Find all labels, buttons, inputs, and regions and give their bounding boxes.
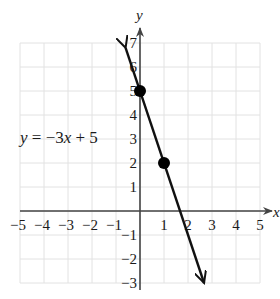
equation-label: y = −3x + 5 <box>18 128 98 147</box>
x-tick-label: −4 <box>34 217 50 233</box>
y-tick-label: −3 <box>121 275 137 291</box>
y-tick-label: 1 <box>130 179 138 195</box>
y-tick-label: 2 <box>130 155 138 171</box>
y-tick-label: −1 <box>121 227 137 243</box>
y-tick-label: 4 <box>130 107 138 123</box>
equation-rest: + 5 <box>71 128 98 147</box>
x-axis-label: x <box>272 204 280 220</box>
y-tick-label: −2 <box>121 251 137 267</box>
equation-y: y <box>18 128 28 147</box>
x-tick-label: 5 <box>256 217 264 233</box>
data-point <box>158 157 170 169</box>
x-tick-label: −2 <box>82 217 98 233</box>
data-point <box>134 85 146 97</box>
x-tick-label: −3 <box>58 217 74 233</box>
y-axis-label: y <box>134 7 143 23</box>
x-tick-label: −5 <box>10 217 26 233</box>
y-tick-label: 3 <box>130 131 138 147</box>
x-tick-label: 3 <box>208 217 216 233</box>
x-tick-label: −1 <box>106 217 122 233</box>
x-tick-label: 4 <box>232 217 240 233</box>
y-tick-label: 7 <box>130 35 138 51</box>
coordinate-plane: x y −5−4−3−2−112345 7654321−1−2−3 y = −3… <box>0 0 280 299</box>
x-tick-label: 1 <box>160 217 168 233</box>
equation-eq: = −3 <box>28 128 64 147</box>
